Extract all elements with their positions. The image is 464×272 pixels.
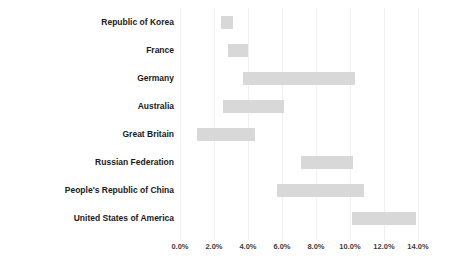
chart-row: Republic of Korea bbox=[0, 8, 464, 36]
chart-row: Australia bbox=[0, 92, 464, 120]
chart-row: Germany bbox=[0, 64, 464, 92]
chart-row: United States of America bbox=[0, 204, 464, 232]
category-label-text: People's Republic of China bbox=[65, 176, 174, 204]
bar-2[interactable] bbox=[228, 44, 248, 57]
category-label-1: Republic of Korea bbox=[0, 8, 174, 36]
x-tick-label-7: 12.0% bbox=[373, 242, 394, 251]
chart-container: Republic of KoreaFranceGermanyAustraliaG… bbox=[0, 0, 464, 272]
chart-row: France bbox=[0, 36, 464, 64]
category-label-text: Australia bbox=[138, 92, 174, 120]
chart-row: Russian Federation bbox=[0, 148, 464, 176]
category-label-8: United States of America bbox=[0, 204, 174, 232]
x-tick-label-8: 14.0% bbox=[407, 242, 428, 251]
category-label-text: Germany bbox=[137, 64, 174, 92]
chart-row: People's Republic of China bbox=[0, 176, 464, 204]
bar-8[interactable] bbox=[352, 212, 417, 225]
x-tick-label-5: 8.0% bbox=[307, 242, 324, 251]
category-label-text: Great Britain bbox=[123, 120, 175, 148]
bar-5[interactable] bbox=[197, 128, 255, 141]
category-label-text: Republic of Korea bbox=[101, 8, 174, 36]
category-label-6: Russian Federation bbox=[0, 148, 174, 176]
category-label-2: France bbox=[0, 36, 174, 64]
bar-3[interactable] bbox=[243, 72, 355, 85]
bar-1[interactable] bbox=[221, 16, 233, 29]
x-tick-label-6: 10.0% bbox=[339, 242, 360, 251]
chart-row: Great Britain bbox=[0, 120, 464, 148]
x-tick-label-4: 6.0% bbox=[273, 242, 290, 251]
x-tick-label-1: 0.0% bbox=[171, 242, 188, 251]
x-tick-label-3: 4.0% bbox=[239, 242, 256, 251]
x-tick-label-2: 2.0% bbox=[205, 242, 222, 251]
category-label-3: Germany bbox=[0, 64, 174, 92]
category-label-4: Australia bbox=[0, 92, 174, 120]
category-label-7: People's Republic of China bbox=[0, 176, 174, 204]
bar-7[interactable] bbox=[277, 184, 364, 197]
bar-6[interactable] bbox=[301, 156, 354, 169]
category-label-text: France bbox=[146, 36, 174, 64]
bar-4[interactable] bbox=[223, 100, 284, 113]
category-label-text: Russian Federation bbox=[95, 148, 174, 176]
category-label-text: United States of America bbox=[74, 204, 174, 232]
category-label-5: Great Britain bbox=[0, 120, 174, 148]
x-axis: 0.0%2.0%4.0%6.0%8.0%10.0%12.0%14.0% bbox=[180, 242, 418, 256]
